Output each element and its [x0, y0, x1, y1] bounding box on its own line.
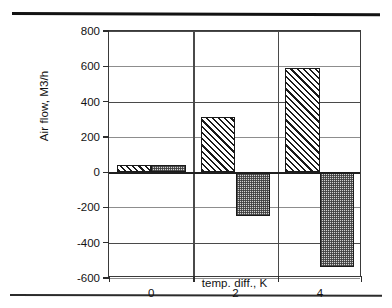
- y-tick-label--600: -600: [77, 272, 100, 284]
- y-axis-title: Air flow, M3/h: [38, 26, 50, 186]
- y-tick-label-200: 200: [81, 131, 100, 143]
- bar-supply-0: [117, 165, 152, 172]
- y-tick-label-400: 400: [81, 96, 100, 108]
- gridline-y-800: [109, 31, 360, 32]
- bar-extract-2: [236, 172, 271, 216]
- x-tick-label-0: 0: [148, 287, 154, 299]
- gridline-y-600: [109, 66, 360, 67]
- bar-extract-4: [320, 172, 355, 267]
- y-tick-mark-600: [103, 66, 109, 67]
- bar-supply-4: [285, 68, 320, 172]
- page-rule-top-icon: [12, 12, 380, 16]
- plot-area: 8006004002000-200-400-600024: [108, 30, 361, 277]
- x-tick-mark-1: [193, 276, 194, 282]
- x-tick-label-4: 4: [317, 287, 323, 299]
- y-tick-mark-800: [103, 30, 109, 31]
- y-tick-mark-400: [103, 101, 109, 102]
- category-separator-2: [278, 31, 279, 276]
- y-tick-mark-200: [103, 136, 109, 137]
- y-tick-label-600: 600: [81, 60, 100, 72]
- bar-supply-2: [201, 117, 236, 173]
- x-tick-mark-3: [361, 276, 362, 282]
- y-tick-label--400: -400: [77, 237, 100, 249]
- x-tick-mark-0: [109, 276, 110, 282]
- y-tick-mark--400: [103, 242, 109, 243]
- bar-extract-0: [151, 165, 186, 172]
- y-tick-label-800: 800: [81, 25, 100, 37]
- y-tick-label--200: -200: [77, 201, 100, 213]
- category-separator-1: [193, 31, 194, 276]
- bar-chart-figure: Air flow, M3/h temp. diff., K 8006004002…: [0, 0, 392, 308]
- gridline-y-400: [109, 102, 360, 103]
- x-tick-mark-2: [278, 276, 279, 282]
- x-tick-label-2: 2: [232, 287, 238, 299]
- y-tick-label-0: 0: [94, 166, 100, 178]
- zero-baseline: [109, 172, 360, 174]
- y-tick-mark--200: [103, 207, 109, 208]
- gridline-y--600: [109, 278, 360, 279]
- page-rule-bottom-icon: [10, 294, 382, 296]
